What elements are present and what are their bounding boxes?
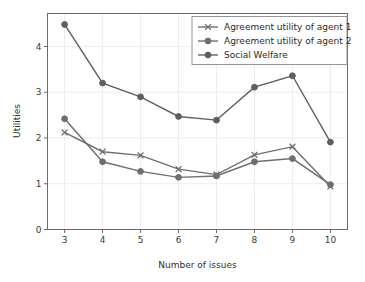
x-tick-label: 3 [62, 235, 68, 245]
x-tick-label: 7 [214, 235, 220, 245]
data-point [62, 116, 68, 122]
y-tick-label: 1 [36, 179, 42, 189]
data-point [138, 168, 144, 174]
data-point [138, 94, 144, 100]
data-point [290, 156, 296, 162]
legend-label: Agreement utility of agent 2 [224, 36, 351, 46]
data-point [100, 159, 106, 165]
legend-label: Agreement utility of agent 1 [224, 22, 351, 32]
y-tick-label: 2 [36, 133, 42, 143]
legend-sample-marker [205, 52, 211, 58]
x-axis-ticks: 345678910 [62, 230, 337, 245]
data-point [214, 173, 220, 179]
x-tick-label: 4 [100, 235, 106, 245]
x-tick-label: 10 [325, 235, 337, 245]
data-point [328, 139, 334, 145]
y-tick-label: 4 [36, 42, 42, 52]
x-tick-label: 5 [138, 235, 144, 245]
data-point [328, 182, 334, 188]
line-chart-figure: 01234 345678910 Number of issues Utiliti… [0, 0, 365, 282]
y-axis-ticks: 01234 [36, 42, 48, 235]
data-point [214, 117, 220, 123]
legend-sample-marker [205, 38, 211, 44]
x-tick-label: 9 [290, 235, 296, 245]
x-axis-label: Number of issues [158, 260, 237, 270]
y-tick-label: 0 [36, 225, 42, 235]
y-tick-label: 3 [36, 87, 42, 97]
legend[interactable]: Agreement utility of agent 1Agreement ut… [192, 17, 351, 65]
data-point [100, 80, 106, 86]
data-point [252, 159, 258, 165]
x-tick-label: 8 [252, 235, 258, 245]
chart-canvas: 01234 345678910 Number of issues Utiliti… [0, 0, 365, 282]
legend-label: Social Welfare [224, 50, 288, 60]
data-point [176, 114, 182, 120]
data-point [252, 84, 258, 90]
y-axis-label: Utilities [12, 104, 22, 138]
data-point [176, 174, 182, 180]
data-point [290, 73, 296, 79]
data-point [62, 22, 68, 28]
x-tick-label: 6 [176, 235, 182, 245]
